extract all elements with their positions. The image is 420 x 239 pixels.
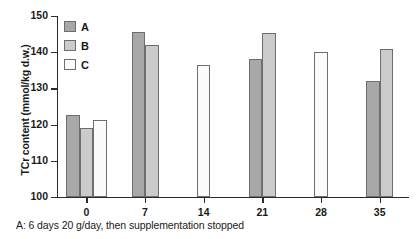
bar-day21-series-B	[262, 33, 276, 197]
x-tick-label-0: 0	[83, 206, 89, 218]
y-tick-label-100: 100	[30, 190, 48, 202]
x-tick-0	[86, 197, 87, 203]
bar-day28-series-C	[314, 52, 328, 197]
y-tick-label-120: 120	[30, 118, 48, 130]
legend-item-b: B	[64, 37, 110, 54]
bar-chart-figure: TCr content (mmol/kg d.w.) 1001101201301…	[0, 0, 420, 239]
legend-label-b: B	[81, 40, 89, 52]
y-axis-line	[57, 16, 58, 197]
bar-day35-series-B	[380, 49, 394, 197]
x-tick-7	[145, 197, 146, 203]
x-tick-28	[321, 197, 322, 203]
chart-legend: A B C	[64, 18, 110, 75]
bar-day7-series-B	[145, 45, 159, 197]
bar-day35-series-A	[366, 81, 380, 197]
legend-swatch-b-icon	[64, 40, 76, 51]
y-tick-label-110: 110	[31, 154, 48, 166]
x-tick-label-35: 35	[374, 206, 386, 218]
x-tick-label-14: 14	[198, 206, 210, 218]
x-tick-label-28: 28	[315, 206, 327, 218]
legend-item-c: C	[64, 56, 110, 73]
x-axis-line	[57, 197, 409, 198]
y-tick-100: 100	[51, 197, 57, 198]
bar-day21-series-A	[249, 59, 263, 197]
legend-swatch-a-icon	[64, 21, 76, 32]
y-tick-120: 120	[51, 125, 57, 126]
x-tick-14	[204, 197, 205, 203]
x-tick-21	[262, 197, 263, 203]
figure-caption: A: 6 days 20 g/day, then supplementation…	[16, 219, 244, 231]
y-tick-140: 140	[51, 52, 57, 53]
legend-label-a: A	[81, 21, 89, 33]
legend-item-a: A	[64, 18, 110, 35]
y-tick-label-150: 150	[30, 9, 48, 21]
y-tick-110: 110	[51, 161, 57, 162]
y-axis-title: TCr content (mmol/kg d.w.)	[19, 15, 31, 205]
y-tick-label-130: 130	[30, 81, 48, 93]
y-tick-150: 150	[51, 16, 57, 17]
y-tick-130: 130	[51, 88, 57, 89]
x-tick-label-21: 21	[256, 206, 268, 218]
bar-day0-series-C	[93, 120, 107, 197]
bar-day14-series-C	[197, 65, 211, 197]
y-tick-label-140: 140	[30, 45, 48, 57]
x-tick-35	[380, 197, 381, 203]
legend-label-c: C	[81, 59, 89, 71]
legend-swatch-c-icon	[64, 59, 76, 70]
bar-day7-series-A	[132, 32, 146, 197]
x-tick-label-7: 7	[142, 206, 148, 218]
bar-day0-series-B	[80, 128, 94, 197]
bar-day0-series-A	[66, 115, 80, 197]
